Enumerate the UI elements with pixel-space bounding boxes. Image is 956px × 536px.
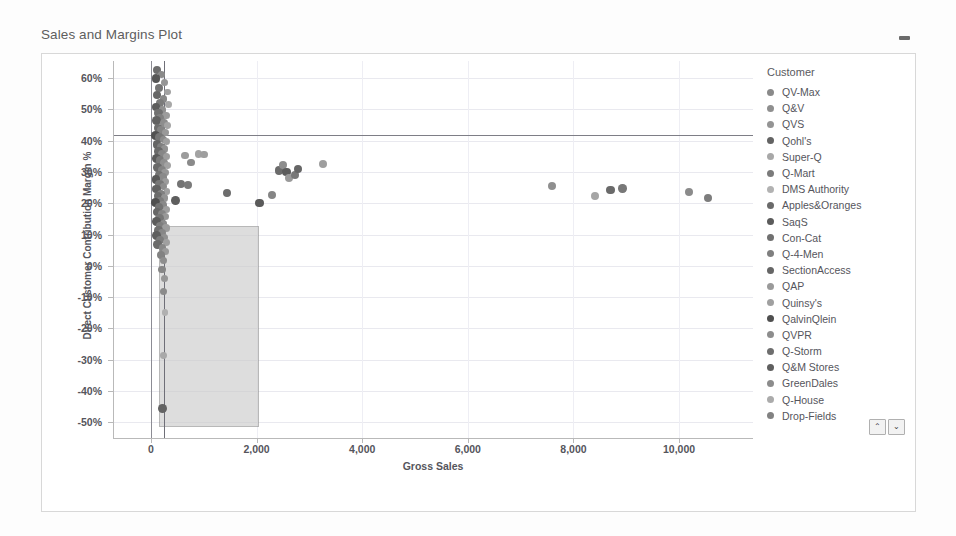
legend-item-label: QV-Max: [782, 86, 820, 98]
scatter-point[interactable]: [160, 352, 167, 359]
minimize-icon[interactable]: [899, 36, 910, 40]
legend-title: Customer: [765, 66, 911, 78]
y-axis-tick-label: -40%: [42, 385, 102, 397]
legend-item-label: QAP: [782, 280, 804, 292]
legend-item[interactable]: Q-4-Men: [765, 246, 911, 262]
legend-item-label: Q&V: [782, 102, 804, 114]
legend-swatch-icon: [767, 170, 774, 177]
y-axis-tick-mark: [108, 172, 113, 173]
scatter-point[interactable]: [606, 186, 614, 194]
scatter-point[interactable]: [181, 152, 189, 160]
scatter-point[interactable]: [184, 181, 192, 189]
y-axis-tick-label: 0%: [42, 260, 102, 272]
y-axis-tick-label: -10%: [42, 291, 102, 303]
scatter-point[interactable]: [223, 189, 231, 197]
legend-item-label: DMS Authority: [782, 183, 849, 195]
y-gridline: [114, 141, 753, 142]
legend-item-label: Q-Mart: [782, 167, 815, 179]
legend-item[interactable]: Q&M Stores: [765, 359, 911, 375]
x-axis-tick-mark: [573, 438, 574, 443]
scatter-point[interactable]: [591, 192, 599, 200]
legend-item-label: QVS: [782, 118, 804, 130]
y-axis-tick-mark: [108, 328, 113, 329]
scatter-point[interactable]: [255, 199, 264, 208]
y-axis-tick-label: 20%: [42, 197, 102, 209]
x-axis-label: Gross Sales: [113, 460, 753, 472]
legend-scroll-buttons[interactable]: ⌃ ⌄: [869, 419, 905, 435]
x-axis-tick-mark: [679, 438, 680, 443]
y-axis-tick-mark: [108, 360, 113, 361]
scatter-point[interactable]: [160, 288, 167, 295]
scatter-point[interactable]: [162, 309, 169, 316]
scatter-point[interactable]: [187, 159, 195, 167]
x-axis-tick-mark: [257, 438, 258, 443]
y-axis-tick-label: -20%: [42, 322, 102, 334]
legend-item[interactable]: Q-Mart: [765, 165, 911, 181]
legend-item[interactable]: Con-Cat: [765, 230, 911, 246]
scatter-point[interactable]: [618, 184, 626, 192]
scatter-point[interactable]: [685, 188, 693, 196]
scroll-up-button[interactable]: ⌃: [869, 419, 886, 435]
y-axis-tick-mark: [108, 78, 113, 79]
x-axis-tick-label: 6,000: [428, 443, 508, 455]
scatter-point[interactable]: [704, 194, 712, 202]
legend-item-label: Q-4-Men: [782, 248, 823, 260]
y-gridline: [114, 109, 753, 110]
legend-item-label: Drop-Fields: [782, 410, 836, 422]
y-axis-tick-mark: [108, 391, 113, 392]
legend-item[interactable]: QAP: [765, 278, 911, 294]
y-axis-tick-label: -30%: [42, 354, 102, 366]
scatter-point[interactable]: [548, 182, 556, 190]
legend-item[interactable]: Super-Q: [765, 149, 911, 165]
legend-swatch-icon: [767, 348, 774, 355]
legend-swatch-icon: [767, 283, 774, 290]
legend-item[interactable]: SectionAccess: [765, 262, 911, 278]
x-axis-tick-label: 2,000: [217, 443, 297, 455]
legend-item[interactable]: DMS Authority: [765, 181, 911, 197]
legend-item[interactable]: Apples&Oranges: [765, 197, 911, 213]
scatter-point[interactable]: [268, 191, 276, 199]
scatter-point[interactable]: [164, 89, 171, 96]
y-axis-label-holder: Direct Customer Contribution Margin %: [54, 54, 55, 55]
plot-area[interactable]: [114, 61, 753, 438]
legend-item[interactable]: QV-Max: [765, 84, 911, 100]
y-axis-tick-label: 10%: [42, 229, 102, 241]
y-gridline: [114, 172, 753, 173]
y-gridline: [114, 78, 753, 79]
legend-item-label: Q&M Stores: [782, 361, 839, 373]
legend-swatch-icon: [767, 137, 774, 144]
legend-item-label: Q-House: [782, 394, 824, 406]
scatter-point[interactable]: [319, 160, 327, 168]
legend-item[interactable]: QVS: [765, 116, 911, 132]
legend-swatch-icon: [767, 153, 774, 160]
scatter-point[interactable]: [294, 165, 302, 173]
y-axis-tick-label: 60%: [42, 72, 102, 84]
legend-swatch-icon: [767, 412, 774, 419]
legend-item[interactable]: Q&V: [765, 100, 911, 116]
legend-item[interactable]: SaqS: [765, 214, 911, 230]
x-axis-tick-mark: [468, 438, 469, 443]
page-title: Sales and Margins Plot: [41, 27, 182, 42]
legend-swatch-icon: [767, 121, 774, 128]
legend-item[interactable]: QVPR: [765, 327, 911, 343]
legend-item-label: Super-Q: [782, 151, 822, 163]
legend-item[interactable]: QalvinQlein: [765, 311, 911, 327]
legend-swatch-icon: [767, 364, 774, 371]
scatter-point[interactable]: [152, 74, 161, 83]
legend-item[interactable]: Q-Storm: [765, 343, 911, 359]
legend-item-label: SectionAccess: [782, 264, 851, 276]
y-axis-tick-label: 30%: [42, 166, 102, 178]
legend-item[interactable]: Q-House: [765, 392, 911, 408]
scatter-point[interactable]: [200, 151, 208, 159]
scroll-down-button[interactable]: ⌄: [888, 419, 905, 435]
legend-swatch-icon: [767, 299, 774, 306]
x-axis-tick-label: 4,000: [322, 443, 402, 455]
legend-item[interactable]: Qohl's: [765, 133, 911, 149]
scatter-point[interactable]: [165, 101, 172, 108]
y-axis-tick-mark: [108, 203, 113, 204]
legend-item[interactable]: Quinsy's: [765, 294, 911, 310]
legend-item-label: Q-Storm: [782, 345, 822, 357]
scatter-point[interactable]: [164, 122, 171, 129]
scatter-point[interactable]: [158, 404, 167, 413]
legend-item[interactable]: GreenDales: [765, 375, 911, 391]
